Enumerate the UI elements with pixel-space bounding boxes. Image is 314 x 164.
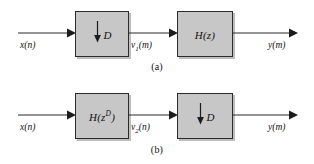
input-signal-label-a: x(n) — [20, 41, 35, 51]
wire-downsampler-to-output-b — [233, 109, 298, 121]
block-downsampler-a-content: D — [76, 12, 128, 56]
subfigure-caption-a: (a) — [0, 62, 314, 72]
wire-filter-to-downsampler-b — [129, 109, 178, 121]
block-filter-hz-content: H(z) — [178, 12, 232, 56]
output-signal-arg-a: (m) — [272, 40, 285, 50]
block-downsampler-b[interactable]: D — [177, 93, 233, 139]
block-downsampler-a[interactable]: D — [75, 11, 129, 57]
intermediate-signal-arg-b: (n) — [139, 122, 150, 132]
downsampler-factor-label-a: D — [104, 30, 112, 41]
noble-identity-figure: x(n) D — [0, 0, 314, 164]
down-arrow-icon — [93, 21, 102, 47]
diagram-row-a: x(n) D — [0, 0, 314, 82]
subfigure-caption-b: (b) — [0, 145, 314, 155]
filter-label-close-b: ) — [111, 110, 115, 122]
downsampler-factor-label-b: D — [207, 112, 215, 123]
input-signal-label-b: x(n) — [20, 123, 35, 133]
filter-label-base-b: H(z — [89, 110, 106, 122]
intermediate-signal-label-a: v1(m) — [131, 41, 152, 53]
down-arrow-icon — [196, 103, 205, 129]
input-signal-arg-a: (n) — [24, 40, 35, 50]
filter-label-base-a: H(z — [195, 28, 212, 40]
wire-input-to-filter-b — [18, 109, 76, 121]
intermediate-signal-label-b: v2(n) — [131, 123, 150, 135]
wire-filter-to-output-a — [233, 27, 298, 39]
output-signal-arg-b: (m) — [272, 122, 285, 132]
block-downsampler-b-content: D — [178, 94, 232, 138]
intermediate-signal-arg-a: (m) — [139, 40, 152, 50]
output-signal-label-a: y(m) — [268, 41, 285, 51]
filter-transfer-function-label-a: H(z) — [195, 28, 215, 41]
output-signal-label-b: y(m) — [268, 123, 285, 133]
input-signal-arg-b: (n) — [24, 122, 35, 132]
block-filter-hzd-content: H(zD) — [76, 94, 128, 138]
downsampler-symbol-b: D — [196, 103, 215, 129]
filter-label-close-a: ) — [211, 28, 215, 40]
wire-downsampler-to-filter-a — [129, 27, 178, 39]
downsampler-symbol-a: D — [93, 21, 112, 47]
diagram-row-b: x(n) H(zD) v2(n) — [0, 82, 314, 164]
block-filter-hz[interactable]: H(z) — [177, 11, 233, 57]
wire-input-to-downsampler-a — [18, 27, 76, 39]
block-filter-hzd[interactable]: H(zD) — [75, 93, 129, 139]
filter-transfer-function-label-b: H(zD) — [89, 110, 115, 123]
